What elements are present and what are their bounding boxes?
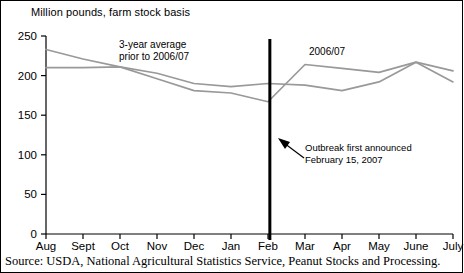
series-label-2006-07: 2006/07 (309, 46, 345, 58)
y-axis-tick-label: 200 (3, 70, 37, 82)
x-axis-tick-label: July (443, 240, 463, 253)
series-label-average: 3-year average prior to 2006/07 (119, 39, 189, 62)
x-axis-tick-label: Dec (184, 240, 204, 253)
chart-plot-area (1, 1, 464, 273)
x-axis-tick-label: Feb (258, 240, 278, 253)
x-axis-tick-label: Oct (111, 240, 129, 253)
x-axis-tick-label: Sept (71, 240, 95, 253)
x-axis-tick-label: Jan (222, 240, 241, 253)
outbreak-annotation-label: Outbreak first announced February 15, 20… (305, 142, 412, 165)
y-axis-tick-label: 0 (3, 228, 37, 240)
x-axis-tick-label: June (404, 240, 429, 253)
series-line-average (46, 62, 453, 91)
y-axis-tick-label: 100 (3, 149, 37, 161)
x-axis-tick-label: Mar (295, 240, 315, 253)
annotation-arrow-head (278, 138, 290, 149)
x-axis-tick-label: Aug (36, 240, 56, 253)
y-axis-tick-label: 150 (3, 109, 37, 121)
x-axis-tick-label: May (368, 240, 390, 253)
y-axis-tick-label: 50 (3, 188, 37, 200)
y-axis-tick-label: 250 (3, 30, 37, 42)
x-axis-tick-label: Nov (147, 240, 167, 253)
x-axis-tick-label: Apr (333, 240, 351, 253)
source-note: Source: USDA, National Agricultural Stat… (5, 254, 440, 269)
